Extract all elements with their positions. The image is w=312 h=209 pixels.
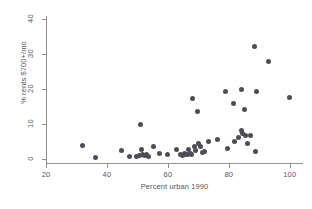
y-tick-mark — [42, 89, 46, 90]
x-axis-title: Percent urban 1990 — [46, 182, 303, 191]
plot-area — [46, 16, 302, 163]
data-point — [138, 122, 143, 127]
data-point — [206, 139, 211, 144]
x-tick-mark — [229, 164, 230, 168]
y-tick-label: 0 — [26, 148, 35, 168]
x-tick-label: 20 — [31, 170, 61, 179]
y-tick-mark — [42, 54, 46, 55]
data-point — [127, 154, 132, 159]
x-axis-line — [46, 163, 303, 164]
x-tick-label: 60 — [153, 170, 183, 179]
data-point — [242, 107, 247, 112]
data-point — [119, 148, 124, 153]
y-axis-title: % rents $700+/mo — [19, 8, 28, 138]
y-axis-line — [46, 16, 47, 164]
data-point — [151, 144, 156, 149]
data-point — [215, 137, 220, 142]
x-tick-mark — [290, 164, 291, 168]
y-tick-mark — [42, 19, 46, 20]
x-tick-label: 100 — [275, 170, 305, 179]
x-tick-mark — [46, 164, 47, 168]
y-tick-mark — [42, 159, 46, 160]
data-point — [248, 133, 253, 138]
x-tick-label: 40 — [92, 170, 122, 179]
x-tick-mark — [107, 164, 108, 168]
y-tick-mark — [42, 124, 46, 125]
x-tick-mark — [168, 164, 169, 168]
scatter-plot-figure: 010203040 20406080100 % rents $700+/mo P… — [0, 0, 312, 209]
data-point — [225, 146, 230, 151]
x-tick-label: 80 — [214, 170, 244, 179]
data-point — [252, 44, 257, 49]
data-point — [253, 149, 258, 154]
data-point — [198, 144, 203, 149]
data-point — [195, 109, 200, 114]
